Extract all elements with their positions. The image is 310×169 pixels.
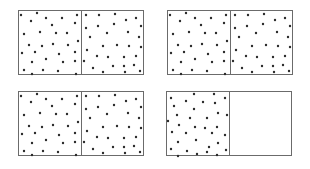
dot [31,61,33,63]
dot [74,141,76,143]
dot [232,60,234,62]
dot [195,139,197,141]
dot [191,69,193,71]
dot [123,146,125,148]
dot [112,146,114,148]
dot [139,70,141,72]
dot [235,49,237,51]
dot [272,65,274,67]
dot [57,151,59,153]
dot [51,105,53,107]
dot [36,12,38,14]
dot [41,126,43,128]
dot [206,151,208,153]
dot-field [231,11,293,74]
dot [214,102,216,104]
dot [123,65,125,67]
dot [23,150,25,152]
dot [61,98,63,100]
dot [213,93,215,95]
dot [241,67,243,69]
dot [180,73,182,75]
dot [67,125,69,127]
dot [89,36,91,38]
dot [196,153,198,155]
dot [74,60,76,62]
dot [51,24,53,26]
dot [138,117,140,119]
dot [106,32,108,34]
dot [98,95,100,97]
dot [39,31,41,33]
dot [76,14,78,16]
dot [135,98,137,100]
dot [127,112,129,114]
dot [176,114,178,116]
right-half [229,92,292,155]
dot [114,94,116,96]
panel-bottom-left [18,91,144,156]
dot-field [168,11,230,74]
dot [288,70,290,72]
dot [170,148,172,150]
dot [223,51,225,53]
dot [77,40,79,42]
dot [113,104,115,106]
dot [86,49,88,51]
dot [85,27,87,29]
dot [287,36,289,38]
dot [128,45,130,47]
dot [194,17,196,19]
dot [28,44,30,46]
dot-field [230,92,292,155]
dot [224,97,226,99]
dot [170,97,172,99]
dot [102,45,104,47]
dot [58,53,60,55]
dot [223,60,225,62]
dot [208,146,210,148]
panel-top-right [167,10,293,75]
dot [256,56,258,58]
dot [61,17,63,19]
dot [107,56,109,58]
dot [124,71,126,73]
dot [193,93,195,95]
dot [76,95,78,97]
dot [75,73,77,75]
dot [106,113,108,115]
dot [97,106,99,108]
dot [200,24,202,26]
dot [246,25,248,27]
dot [125,100,127,102]
dot [62,61,64,63]
dot [276,31,278,33]
dot [77,121,79,123]
dot [135,17,137,19]
dot [274,19,276,21]
dot [251,45,253,47]
dot [224,134,226,136]
dot [58,134,60,136]
dot [138,36,140,38]
dot [123,137,125,139]
dot [112,65,114,67]
dot [62,142,64,144]
dot [116,44,118,46]
dot [265,44,267,46]
dot [261,65,263,67]
dot [140,127,142,129]
dot [102,71,104,73]
dot [96,136,98,138]
dot [66,32,68,34]
right-half [81,92,144,155]
dot [125,19,127,21]
dot [89,117,91,119]
dot-field [82,92,144,155]
dot [55,113,57,115]
dot [41,45,43,47]
dot [216,126,218,128]
dot [177,155,179,157]
dot [188,31,190,33]
dot [34,132,36,134]
